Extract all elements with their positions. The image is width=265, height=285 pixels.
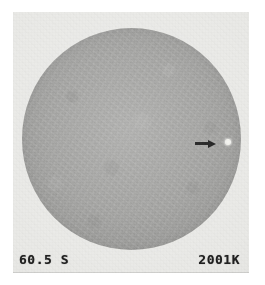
label-temperature: 2001K [198,253,240,266]
label-latitude: 60.5 S [19,253,69,266]
arrow-head [208,140,216,148]
plate-bottom-edge [13,272,249,273]
feature-annotation [195,132,241,154]
arrow-right-icon [195,140,219,147]
screenshot-root: 60.5 S 2001K [0,0,265,285]
solar-photograph-plate: 60.5 S 2001K [13,12,249,273]
bright-point-icon [225,139,231,145]
